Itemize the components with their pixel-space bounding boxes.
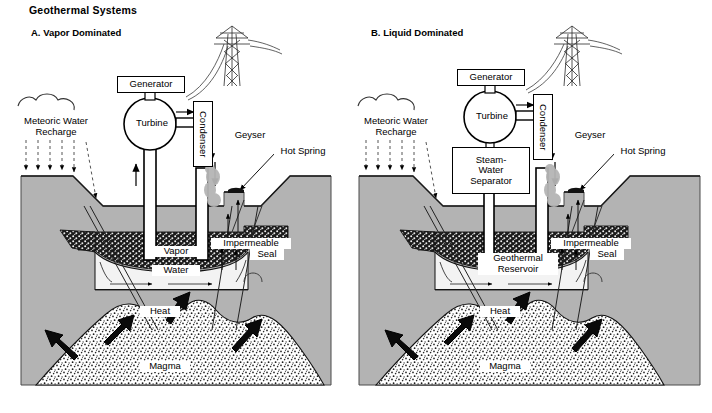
panel-liquid-dominated: B. Liquid Dominated Meteoric Water Recha… (356, 0, 708, 413)
panel-a-turbine-label: Turbine (124, 118, 180, 129)
panel-a-impermeable-seal-line1: Impermeable (211, 238, 291, 249)
panel-a-hot-spring-label: Hot Spring (274, 146, 332, 157)
panel-a-magma-label: Magma (140, 361, 190, 372)
panel-b-separator-line3: Separator (470, 176, 512, 186)
geothermal-systems-figure: Geothermal Systems (0, 0, 712, 413)
panel-b-turbine-label: Turbine (464, 111, 520, 122)
panel-a-geyser-label: Geyser (229, 130, 271, 141)
panel-b-zone-line2: Reservoir (478, 264, 558, 275)
panel-b-magma-label: Magma (480, 361, 530, 372)
panel-a-zone-vapor-label: Vapor (152, 246, 200, 257)
panel-a-impermeable-seal-line2: Seal (250, 249, 284, 260)
panel-a-artwork (0, 0, 352, 413)
panel-b-impermeable-seal-line2: Seal (590, 249, 624, 260)
panel-a-label: A. Vapor Dominated (29, 28, 123, 39)
panel-a-condenser-box: Condenser (193, 101, 213, 167)
panel-b-condenser-box: Condenser (533, 94, 553, 160)
panel-vapor-dominated: A. Vapor Dominated Meteoric Water Rechar… (0, 0, 352, 413)
panel-b-impermeable-seal-line1: Impermeable (551, 238, 631, 249)
panel-b-heat-label: Heat (480, 306, 520, 317)
panel-a-recharge-label-line2: Recharge (6, 127, 106, 138)
panel-a-zone-water-label: Water (152, 265, 200, 276)
panel-b-recharge-label-line2: Recharge (346, 127, 446, 138)
panel-a-generator-box: Generator (117, 76, 185, 93)
panel-b-generator-box: Generator (457, 69, 525, 86)
panel-b-separator-box: Steam- Water Separator (452, 147, 530, 194)
panel-b-hot-spring-label: Hot Spring (614, 146, 672, 157)
panel-b-geyser-label: Geyser (569, 130, 611, 141)
panel-a-heat-label: Heat (140, 306, 180, 317)
panel-b-artwork (356, 0, 708, 413)
panel-b-label: B. Liquid Dominated (369, 28, 465, 39)
